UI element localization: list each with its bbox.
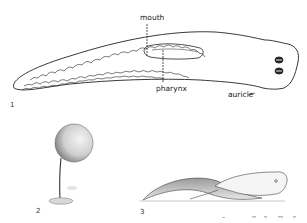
base-substrate	[49, 198, 73, 204]
figure-number-1: 1	[10, 102, 14, 109]
sphere-body	[55, 124, 93, 162]
figure-number-2: 2	[36, 208, 40, 215]
label-auricle: auricle	[228, 91, 253, 99]
label-mouth: mouth	[140, 14, 164, 22]
pharynx-shape	[144, 44, 203, 59]
label-pharynx: pharynx	[156, 85, 187, 93]
faint-caption-remnants	[222, 216, 296, 218]
gut-branch-upper	[30, 45, 205, 80]
figure-3-gliding-planarian	[140, 172, 287, 201]
illustration-canvas	[0, 0, 307, 223]
stalk	[60, 158, 61, 200]
pharynx-inner	[152, 49, 198, 52]
faint-shadow	[67, 186, 77, 190]
figure-2-sphere-on-stalk	[49, 124, 93, 204]
figure-number-3: 3	[140, 209, 144, 216]
